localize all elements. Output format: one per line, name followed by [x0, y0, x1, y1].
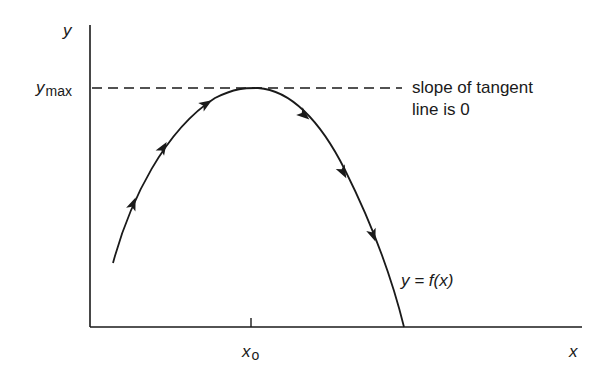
ymax-label: ymax: [36, 79, 72, 98]
annotation-line-1: slope of tangent: [412, 77, 533, 99]
x0-subscript: o: [252, 347, 260, 363]
arrow-down-icon: [296, 107, 312, 123]
ymax-subscript: max: [46, 83, 72, 99]
x0-label: xo: [242, 343, 259, 362]
arrow-up-icon: [126, 196, 140, 212]
annotation-line-2: line is 0: [412, 99, 533, 121]
ymax-base: y: [36, 78, 45, 97]
y-axis-label: y: [63, 22, 72, 39]
x0-base: x: [242, 342, 251, 361]
function-curve: [113, 88, 404, 327]
x-axis-label: x: [569, 343, 578, 360]
curve-label: y = f(x): [401, 272, 453, 289]
slope-annotation: slope of tangent line is 0: [412, 77, 533, 121]
diagram-canvas: [0, 0, 615, 384]
